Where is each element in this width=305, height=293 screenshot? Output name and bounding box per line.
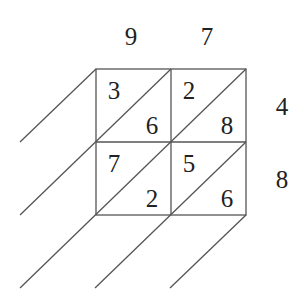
cell-tens-digit: 3	[108, 77, 121, 104]
cell-ones-digit: 8	[221, 112, 234, 139]
cell-tens-digit: 2	[183, 77, 196, 104]
diagonal-line	[20, 69, 246, 288]
diagonal-line	[20, 69, 96, 142]
cell-tens-digit: 7	[108, 150, 121, 177]
diagonal-line	[170, 215, 246, 288]
right-digit: 8	[276, 166, 289, 193]
cell-ones-digit: 6	[146, 112, 159, 139]
top-digit: 9	[125, 23, 138, 50]
cell-ones-digit: 2	[146, 185, 159, 212]
cell-tens-digit: 5	[183, 150, 196, 177]
lattice-diagram: 9 7 4 8 3 6 2 8 7 2 5 6	[0, 0, 305, 293]
top-digit: 7	[201, 23, 214, 50]
cell-ones-digit: 6	[221, 185, 234, 212]
right-digit: 4	[276, 93, 289, 120]
